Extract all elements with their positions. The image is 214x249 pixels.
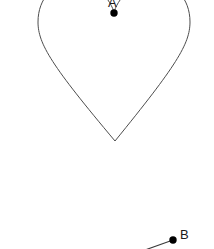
geometry-figure	[0, 0, 214, 249]
heart-outline-shape	[38, 0, 190, 141]
point-b-marker	[169, 236, 176, 243]
point-b-label: B	[180, 228, 189, 241]
figure-canvas: A B	[0, 0, 214, 249]
point-a-label: A	[108, 0, 117, 9]
segment-to-point-b	[145, 240, 173, 249]
point-a-marker	[110, 9, 117, 16]
